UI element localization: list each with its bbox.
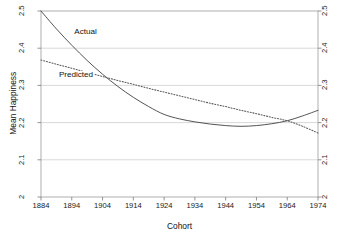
plot-frame bbox=[41, 11, 318, 197]
y-axis-tick-left: 2.1 bbox=[18, 150, 26, 170]
x-axis-tick: 1964 bbox=[273, 202, 301, 210]
x-axis-tick: 1894 bbox=[58, 202, 86, 210]
x-axis-tick: 1934 bbox=[181, 202, 209, 210]
y-axis-tick-right: 2.1 bbox=[321, 150, 329, 170]
y-axis-tick-right: 2.2 bbox=[321, 112, 329, 132]
series-annotation-actual: Actual bbox=[73, 28, 98, 36]
gridlines-group bbox=[41, 48, 318, 160]
y-axis-tick-right: 2.3 bbox=[321, 75, 329, 95]
y-axis-tick-left: 2.4 bbox=[18, 38, 26, 58]
y-axis-title: Mean Happiness bbox=[9, 58, 17, 148]
x-axis-tick: 1924 bbox=[150, 202, 178, 210]
y-axis-tick-left: 2.3 bbox=[18, 75, 26, 95]
x-axis-tick: 1954 bbox=[242, 202, 270, 210]
x-axis-tick: 1884 bbox=[27, 202, 55, 210]
x-axis-tick: 1914 bbox=[119, 202, 147, 210]
x-axis-tick: 1904 bbox=[89, 202, 117, 210]
y-axis-tick-left: 2.2 bbox=[18, 112, 26, 132]
y-axis-tick-right: 2.4 bbox=[321, 38, 329, 58]
y-axis-tick-left: 2.5 bbox=[18, 1, 26, 21]
chart-container: 22.12.22.32.42.5 22.12.22.32.42.5 188418… bbox=[0, 0, 342, 240]
y-axis-tick-left: 2 bbox=[18, 187, 26, 207]
x-axis-tick: 1974 bbox=[304, 202, 332, 210]
x-axis-tick: 1944 bbox=[212, 202, 240, 210]
series-annotation-predicted: Predicted bbox=[58, 71, 94, 79]
x-axis-title: Cohort bbox=[140, 222, 220, 230]
plot-border bbox=[41, 11, 318, 197]
axis-ticks-group bbox=[38, 11, 322, 201]
y-axis-tick-right: 2.5 bbox=[321, 1, 329, 21]
